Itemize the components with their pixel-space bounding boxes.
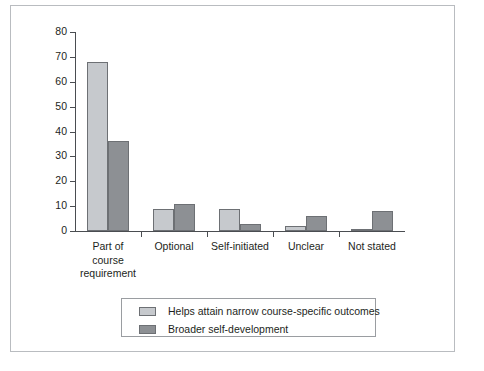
- y-tick-label: 80: [55, 25, 67, 38]
- legend-label: Helps attain narrow course-specific outc…: [168, 305, 380, 318]
- y-tick-mark: [70, 57, 75, 58]
- bar: [351, 229, 372, 231]
- bar: [108, 141, 129, 231]
- y-tick-mark: [70, 132, 75, 133]
- legend-label: Broader self-development: [168, 323, 288, 336]
- y-tick-mark: [70, 206, 75, 207]
- chart-legend: Helps attain narrow course-specific outc…: [121, 298, 376, 337]
- legend-item: Broader self-development: [139, 323, 375, 336]
- figure-frame: 80706050403020100 Part of course require…: [10, 5, 455, 352]
- bar: [174, 204, 195, 231]
- bar: [153, 209, 174, 231]
- bar-group: [219, 32, 261, 231]
- y-tick-mark: [70, 82, 75, 83]
- x-tick-mark: [141, 232, 142, 237]
- bar: [240, 224, 261, 231]
- plot-area: 80706050403020100 Part of course require…: [75, 32, 405, 232]
- bar: [372, 211, 393, 231]
- x-tick-mark: [273, 232, 274, 237]
- y-tick-mark: [70, 32, 75, 33]
- y-tick-label: 20: [55, 174, 67, 187]
- y-tick-mark: [70, 181, 75, 182]
- x-axis-line: [75, 231, 405, 232]
- x-tick-mark: [207, 232, 208, 237]
- bar: [87, 62, 108, 231]
- bar-group: [351, 32, 393, 231]
- bar: [285, 226, 306, 231]
- bar-group: [87, 32, 129, 231]
- bar: [219, 209, 240, 231]
- y-axis-line: [75, 32, 76, 232]
- x-category-label: Unclear: [273, 240, 339, 254]
- legend-swatch-icon: [139, 307, 156, 316]
- y-tick-label: 70: [55, 50, 67, 63]
- bar: [306, 216, 327, 231]
- x-category-label: Not stated: [339, 240, 405, 254]
- y-tick-label: 40: [55, 125, 67, 138]
- x-category-label: Part of course requirement: [75, 240, 141, 281]
- x-category-label: Optional: [141, 240, 207, 254]
- legend-item: Helps attain narrow course-specific outc…: [139, 305, 375, 318]
- x-category-label: Self-initiated: [207, 240, 273, 254]
- bar-group: [285, 32, 327, 231]
- y-tick-label: 10: [55, 199, 67, 212]
- legend-swatch-icon: [139, 325, 156, 334]
- x-tick-mark: [339, 232, 340, 237]
- y-tick-label: 60: [55, 75, 67, 88]
- y-tick-label: 0: [61, 224, 67, 237]
- y-tick-mark: [70, 107, 75, 108]
- y-tick-mark: [70, 156, 75, 157]
- y-tick-mark: [70, 231, 75, 232]
- y-tick-label: 30: [55, 149, 67, 162]
- y-tick-label: 50: [55, 100, 67, 113]
- bar-group: [153, 32, 195, 231]
